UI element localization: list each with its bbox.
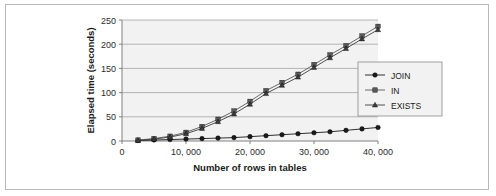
data-point-join	[296, 131, 301, 136]
y-axis-title: Elapsed time (seconds)	[85, 27, 96, 133]
y-tick-label: 150	[101, 64, 116, 74]
line-chart: 050100150200250010, 00020, 00030, 00040,…	[0, 0, 496, 196]
y-tick-label: 50	[106, 112, 116, 122]
y-tick-label: 0	[111, 137, 116, 147]
data-point-join	[184, 137, 189, 142]
y-axis-title-group: Elapsed time (seconds)	[85, 27, 96, 133]
data-point-join	[280, 132, 285, 137]
y-tick-label: 250	[101, 16, 116, 26]
chart-legend: JOININEXISTS	[358, 62, 442, 116]
data-point-join	[264, 133, 269, 138]
legend-label-join: JOIN	[391, 71, 410, 81]
plot-area-background	[122, 20, 378, 141]
data-point-join	[376, 125, 381, 130]
data-point-join	[360, 127, 365, 132]
x-tick-label: 10, 000	[171, 147, 201, 157]
legend-label-exists: EXISTS	[391, 101, 422, 111]
x-tick-label: 40, 000	[363, 147, 393, 157]
x-axis-title: Number of rows in tables	[193, 162, 307, 173]
chart-canvas: 050100150200250010, 00020, 00030, 00040,…	[0, 0, 496, 196]
data-point-join	[344, 128, 349, 133]
x-tick-label: 30, 000	[299, 147, 329, 157]
legend-marker-in	[373, 88, 377, 92]
data-point-join	[312, 130, 317, 135]
data-point-join	[200, 136, 205, 141]
x-tick-label: 20, 000	[235, 147, 265, 157]
legend-label-in: IN	[391, 86, 400, 96]
data-point-join	[232, 135, 237, 140]
data-point-join	[248, 134, 253, 139]
x-tick-label: 0	[119, 147, 124, 157]
data-point-join	[216, 136, 221, 141]
y-tick-label: 200	[101, 40, 116, 50]
legend-marker-join	[373, 73, 378, 78]
y-tick-label: 100	[101, 88, 116, 98]
data-point-join	[328, 130, 333, 135]
